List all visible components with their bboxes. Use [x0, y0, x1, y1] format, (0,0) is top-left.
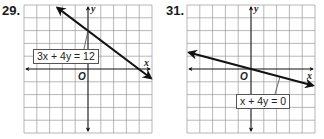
leader-29 — [84, 31, 88, 49]
graph-31 — [187, 5, 315, 133]
x-axis-label-29: x — [144, 57, 149, 68]
graph-29 — [24, 5, 152, 133]
leader-31 — [275, 77, 280, 94]
origin-label-31: O — [240, 71, 248, 82]
line-3x4y12 — [57, 8, 151, 79]
origin-label-29: O — [78, 71, 86, 82]
y-axis-label-31: y — [254, 3, 258, 14]
graphs-canvas — [0, 0, 324, 139]
y-axis-label-29: y — [91, 3, 95, 14]
x-axis-label-31: x — [307, 70, 312, 81]
equation-label-29: 3x + 4y = 12 — [33, 49, 99, 64]
equation-label-31: x + 4y = 0 — [236, 94, 290, 109]
